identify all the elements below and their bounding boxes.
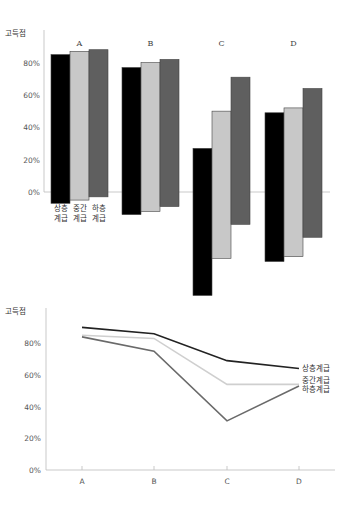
series-label: 계급 xyxy=(54,213,68,223)
bar-B-series-2 xyxy=(160,59,179,206)
series-label: 하층 xyxy=(92,203,106,213)
y-tick-label: 80% xyxy=(24,339,41,348)
line-series-label: 중간계급 xyxy=(302,375,330,385)
category-label: D xyxy=(296,477,302,486)
y-tick-label: 60% xyxy=(23,91,40,100)
line-series-label: 하층계급 xyxy=(302,384,330,394)
category-label: B xyxy=(148,39,154,48)
series-label: 계급 xyxy=(92,213,106,223)
bar-D-series-0 xyxy=(265,113,284,262)
y-tick-label: 20% xyxy=(23,156,40,165)
category-label: C xyxy=(224,477,229,486)
bar-A-series-0 xyxy=(51,55,70,204)
bar-D-series-2 xyxy=(303,89,322,238)
series-label: 계급 xyxy=(73,213,87,223)
bar-C-series-1 xyxy=(212,111,231,258)
bar-A-series-1 xyxy=(70,51,89,200)
y-tick-label: 20% xyxy=(24,434,41,443)
series-label: 상층 xyxy=(54,203,68,213)
bar-C-series-2 xyxy=(231,77,250,224)
line-series-0 xyxy=(82,327,299,368)
floating-bar-chart: 고득점80%60%40%20%0%ABCD상층계급중간계급하층계급 xyxy=(5,28,330,295)
line-series-label: 상층계급 xyxy=(302,363,330,373)
category-label: D xyxy=(290,39,296,48)
bar-A-series-2 xyxy=(89,50,108,197)
category-label: A xyxy=(79,477,85,486)
bar-B-series-1 xyxy=(141,63,160,212)
y-axis-label: 고득점 xyxy=(5,28,26,38)
y-tick-label: 0% xyxy=(28,188,40,197)
category-label: C xyxy=(218,39,224,48)
y-tick-label: 60% xyxy=(24,371,41,380)
y-tick-label: 80% xyxy=(23,59,40,68)
bar-B-series-0 xyxy=(122,67,141,214)
category-label: B xyxy=(151,477,156,486)
y-tick-label: 0% xyxy=(29,466,41,475)
bar-D-series-1 xyxy=(284,108,303,257)
bar-C-series-0 xyxy=(193,148,212,295)
y-tick-label: 40% xyxy=(23,123,40,132)
y-axis-label: 고득점 xyxy=(5,306,26,316)
series-label: 중간 xyxy=(73,203,87,213)
category-label: A xyxy=(76,39,83,48)
chart-canvas: 고득점80%60%40%20%0%ABCD상층계급중간계급하층계급 고득점80%… xyxy=(0,0,352,511)
y-tick-label: 40% xyxy=(24,403,41,412)
line-chart: 고득점80%60%40%20%0%ABCD상층계급중간계급하층계급 xyxy=(5,306,335,486)
line-series-2 xyxy=(82,337,299,421)
